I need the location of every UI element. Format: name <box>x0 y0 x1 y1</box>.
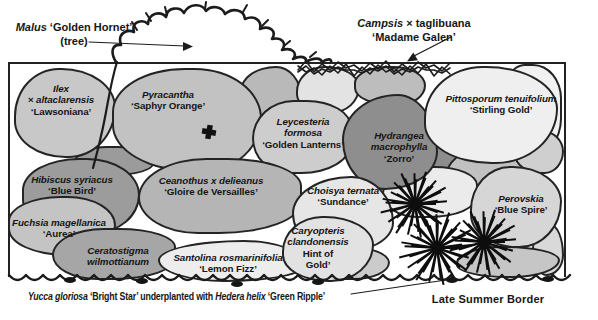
plant-label-hydrangea: Hydrangeamacrophylla‘Zorro’ <box>371 130 428 164</box>
plant-label-ceratostigma: Ceratostigmawilmottianum <box>87 245 149 268</box>
texture-blob <box>456 246 560 278</box>
plant-label-ceanothus: Ceanothus x delieanus‘Gloire de Versaill… <box>159 175 264 198</box>
yucca-pointer-line <box>351 280 446 294</box>
plant-label-fuchsia: Fuchsia magellanica‘Aurea’ <box>12 217 106 240</box>
tree-canopy-ticks <box>132 2 316 57</box>
plant-label-choisya: Choisya ternata‘Sundance’ <box>307 185 379 208</box>
plant-label-leycesteria: Leycesteriaformosa‘Golden Lanterns’ <box>262 116 344 150</box>
plant-blob-pyracantha <box>112 68 262 172</box>
malus-arrowhead-icon <box>183 42 193 51</box>
plant-label-ilex: Ilex× altaclarensis‘Lawsoniana’ <box>28 83 94 117</box>
malus-label-line2: (tree) <box>16 35 133 49</box>
plant-label-hibiscus: Hibiscus syriacus‘Blue Bird’ <box>31 174 113 197</box>
malus-label-line1: Malus ‘Golden Hornet’ <box>16 21 133 35</box>
footer-caption: Yucca gloriosa ‘Bright Star’ underplante… <box>28 291 325 302</box>
plant-label-caryopteris: CaryopterisclandonensisHint ofGold’ <box>287 225 348 270</box>
campsis-label-line1: Campsis × taglibuana <box>357 17 470 31</box>
planting-plan-diagram: Ilex× altaclarensis‘Lawsoniana’Pyracanth… <box>0 0 598 320</box>
plant-label-santolina: Santolina rosmarinifolia‘Lemon Fizz’ <box>173 252 282 275</box>
tree-canopy-outline <box>113 5 332 62</box>
plant-label-perovskia: Perovskia‘Blue Spire’ <box>495 193 548 216</box>
campsis-label-line2: ‘Madame Galen’ <box>357 31 470 45</box>
malus-label: Malus ‘Golden Hornet’ (tree) <box>16 21 133 49</box>
campsis-label: Campsis × taglibuana ‘Madame Galen’ <box>357 17 470 45</box>
campsis-arrowhead-icon <box>407 53 418 62</box>
plant-label-pittosporum: Pittosporum tenuifolium‘Stirling Gold’ <box>446 93 557 116</box>
plant-label-pyracantha: Pyracantha‘Saphyr Orange’ <box>131 89 205 112</box>
border-title: Late Summer Border <box>432 293 544 305</box>
